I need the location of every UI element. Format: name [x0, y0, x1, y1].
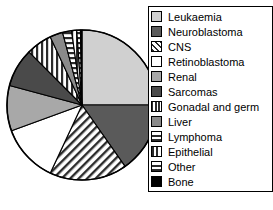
legend-swatch-renal [151, 71, 162, 82]
legend-label-bone: Bone [168, 176, 194, 188]
legend-item-liver[interactable]: Liver [151, 114, 269, 129]
legend-item-gonadal-and-germ[interactable]: Gonadal and germ [151, 99, 269, 114]
legend-swatch-other [151, 161, 162, 172]
pie-chart-area [6, 12, 158, 198]
legend-item-renal[interactable]: Renal [151, 69, 269, 84]
legend-label-cns: CNS [168, 41, 191, 53]
chart-legend: Leukaemia Neuroblastoma CNS Retinoblasto… [148, 6, 273, 192]
legend-item-cns[interactable]: CNS [151, 39, 269, 54]
legend-label-leukaemia: Leukaemia [168, 11, 222, 23]
legend-label-lymphoma: Lymphoma [168, 131, 222, 143]
legend-item-sarcomas[interactable]: Sarcomas [151, 84, 269, 99]
legend-swatch-cns [151, 41, 162, 52]
legend-label-liver: Liver [168, 116, 192, 128]
legend-item-epithelial[interactable]: Epithelial [151, 144, 269, 159]
legend-label-epithelial: Epithelial [168, 146, 213, 158]
legend-label-sarcomas: Sarcomas [168, 86, 218, 98]
pie-chart-figure: Leukaemia Neuroblastoma CNS Retinoblasto… [0, 0, 273, 210]
legend-item-other[interactable]: Other [151, 159, 269, 174]
legend-swatch-bone [151, 176, 162, 187]
legend-item-lymphoma[interactable]: Lymphoma [151, 129, 269, 144]
legend-item-leukaemia[interactable]: Leukaemia [151, 9, 269, 24]
legend-swatch-leukaemia [151, 11, 162, 22]
legend-swatch-neuroblastoma [151, 26, 162, 37]
legend-swatch-gonadal-and-germ [151, 101, 162, 112]
legend-item-neuroblastoma[interactable]: Neuroblastoma [151, 24, 269, 39]
legend-label-gonadal-and-germ: Gonadal and germ [168, 101, 259, 113]
legend-swatch-lymphoma [151, 131, 162, 142]
legend-swatch-liver [151, 116, 162, 127]
legend-swatch-epithelial [151, 146, 162, 157]
legend-label-retinoblastoma: Retinoblastoma [168, 56, 244, 68]
legend-label-renal: Renal [168, 71, 197, 83]
pie-slice-leukaemia[interactable] [82, 30, 157, 105]
legend-label-other: Other [168, 161, 196, 173]
legend-item-retinoblastoma[interactable]: Retinoblastoma [151, 54, 269, 69]
legend-label-neuroblastoma: Neuroblastoma [168, 26, 243, 38]
legend-swatch-retinoblastoma [151, 56, 162, 67]
legend-swatch-sarcomas [151, 86, 162, 97]
pie-chart-svg [6, 12, 158, 198]
legend-item-bone[interactable]: Bone [151, 174, 269, 189]
